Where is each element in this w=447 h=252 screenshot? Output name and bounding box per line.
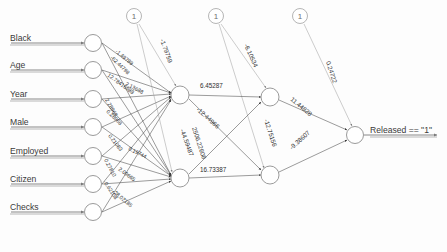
input-nodes [85, 35, 102, 221]
input-label-male: Male [10, 117, 29, 127]
input-node-checks[interactable] [85, 204, 102, 221]
weight-label: 2.09665 [117, 166, 136, 182]
input-label-year: Year [10, 89, 28, 99]
weight-h1b-to-h2b: 16.73387 [200, 166, 227, 173]
weight-h2-cross: -12.75156 [263, 118, 279, 148]
input-node-citizen[interactable] [85, 176, 102, 193]
input-label-citizen: Citizen [10, 174, 36, 184]
input-labels: Black Age Year Male Employed Citizen Che… [10, 33, 48, 212]
input-node-male[interactable] [85, 119, 102, 136]
input-node-employed[interactable] [85, 148, 102, 165]
bias-nodes: 1 1 1 [127, 9, 308, 24]
input-node-year[interactable] [85, 91, 102, 108]
input-node-black[interactable] [85, 35, 102, 52]
major-weight-labels: -1.79759 -6.10534 0.24722 6.45287 -12.44… [159, 38, 339, 173]
input-label-employed: Employed [10, 146, 48, 156]
weight-h1a-to-h2a: 6.45287 [200, 82, 223, 89]
weight-h2a-to-out: 11.44828 [289, 95, 314, 117]
hidden2-node-a[interactable] [261, 88, 279, 106]
input-label-age: Age [10, 60, 26, 70]
neural-network-diagram: 1 1 1 Black Age Year Male Employed Citiz… [0, 0, 447, 252]
input-edge-weight-labels: -1.49789 -62.44798 12.78416988 2.13688 2… [102, 48, 148, 208]
input-node-age[interactable] [85, 62, 102, 79]
weight-label: 0.19744 [128, 146, 148, 160]
bias-node-3-label: 1 [298, 12, 303, 21]
hidden1-node-a[interactable] [171, 86, 189, 104]
weight-h1b-cross: 2506.22608 [191, 126, 208, 160]
output-label: Released == "1" [370, 125, 432, 135]
weight-bias-to-out: 0.24722 [325, 60, 339, 84]
hidden2-node-b[interactable] [261, 166, 279, 184]
hidden1-node-b[interactable] [171, 169, 189, 187]
network-canvas: 1 1 1 Black Age Year Male Employed Citiz… [0, 0, 447, 252]
output-node[interactable] [347, 127, 364, 144]
weight-h2b-to-out: -9.38607 [288, 129, 312, 151]
input-label-checks: Checks [10, 202, 39, 212]
bias-node-1-label: 1 [132, 12, 137, 21]
weight-h1a-to-h2b: -12.44966 [195, 106, 221, 131]
weight-bias-to-h2a: -6.10534 [243, 43, 260, 69]
weight-bias-to-h1a: -1.79759 [159, 38, 174, 64]
input-label-black: Black [10, 33, 32, 43]
bias-node-2-label: 1 [214, 12, 219, 21]
